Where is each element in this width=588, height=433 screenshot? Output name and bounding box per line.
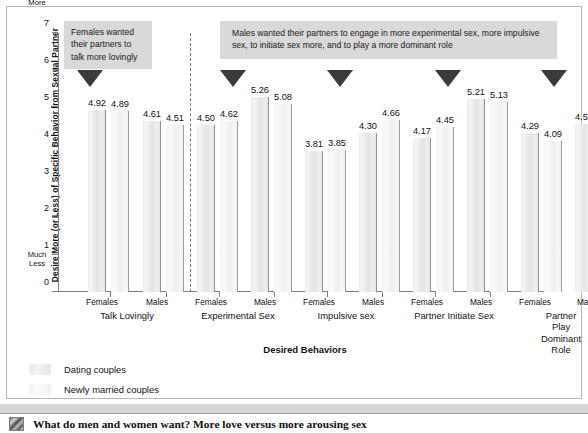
- group-label-line2: Dominant Role: [541, 333, 581, 356]
- legend-label-married: Newly married couples: [64, 384, 159, 395]
- group-label-partner-dominant-role: Partner Play Dominant Role: [541, 310, 581, 355]
- caption-text: What do men and women want? More love ve…: [33, 418, 367, 430]
- callout-males: Males wanted their partners to engage in…: [220, 21, 557, 59]
- plot-area-overflow: 4.54 4.55: [58, 33, 552, 292]
- y-tick-label-6: 6: [44, 55, 49, 65]
- sub-label-males-1: Males: [146, 297, 168, 307]
- caption-bar: What do men and women want? More love ve…: [0, 413, 588, 433]
- group-label-line1: Partner Play: [541, 310, 581, 333]
- legend-swatch-married: [29, 384, 51, 395]
- legend-swatch-dating: [29, 364, 51, 375]
- photo-thumbnail-icon: [9, 417, 24, 431]
- group-label-experimental-sex: Experimental Sex: [201, 310, 274, 321]
- pointer-down-icon-partner-dominant-role: [541, 70, 567, 87]
- legend-item-dating-couples: Dating couples: [29, 364, 126, 375]
- sub-label-females-1: Females: [86, 297, 118, 307]
- group-label-partner-initiate-sex: Partner Initiate Sex: [414, 310, 494, 321]
- sub-label-males-2: Males: [254, 297, 276, 307]
- sub-label-females-3: Females: [303, 297, 335, 307]
- x-axis-title: Desired Behaviors: [263, 344, 346, 355]
- sub-label-females-4: Females: [411, 297, 443, 307]
- callout-females: Females wanted their partners to talk mo…: [64, 21, 152, 69]
- y-tick-label-2: 2: [44, 203, 49, 213]
- y-tick-label-5: 5: [44, 92, 49, 102]
- pointer-down-icon-talk-lovingly: [77, 70, 103, 87]
- legend-label-dating: Dating couples: [64, 364, 126, 375]
- y-tick-label-1: 1: [44, 240, 49, 250]
- y-axis-top-note: Much More: [24, 0, 50, 7]
- pointer-down-icon-impulsive-sex: [327, 70, 353, 87]
- y-tick-label-0: 0: [44, 277, 49, 287]
- bar-dating-males-partner-dominant-role: 4.54: [575, 124, 588, 292]
- y-axis-bottom-note-line2: Less: [24, 260, 50, 269]
- y-axis-bottom-note: Much Less: [24, 251, 50, 268]
- sub-label-males-3: Males: [362, 297, 384, 307]
- y-tick-label-7: 7: [44, 18, 49, 28]
- y-tick-label-3: 3: [44, 166, 49, 176]
- legend-item-newly-married-couples: Newly married couples: [29, 384, 159, 395]
- group-label-impulsive-sex: Impulsive sex: [318, 310, 375, 321]
- bar-value: 4.54: [575, 112, 588, 122]
- figure-page: Desire More (or Less) of Specific Behavi…: [0, 0, 588, 433]
- sub-label-males-5: Males: [577, 297, 588, 307]
- group-label-talk-lovingly: Talk Lovingly: [100, 310, 154, 321]
- pointer-down-icon-experimental-sex: [220, 70, 246, 87]
- sub-label-males-4: Males: [470, 297, 492, 307]
- figure-frame: Desire More (or Less) of Specific Behavi…: [6, 6, 582, 399]
- y-axis-top-note-line2: More: [24, 0, 50, 7]
- y-tick-label-4: 4: [44, 129, 49, 139]
- sub-label-females-2: Females: [195, 297, 227, 307]
- sub-label-females-5: Females: [519, 297, 551, 307]
- pointer-down-icon-partner-initiate-sex: [435, 70, 461, 87]
